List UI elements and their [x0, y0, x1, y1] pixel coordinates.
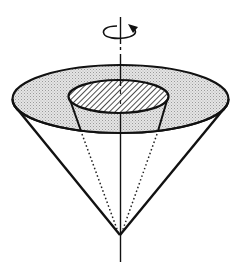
inner-dotted-lines [82, 134, 157, 232]
diagram-canvas [0, 0, 241, 272]
inner-frustum-top [69, 80, 169, 113]
cone-diagram [0, 0, 241, 272]
